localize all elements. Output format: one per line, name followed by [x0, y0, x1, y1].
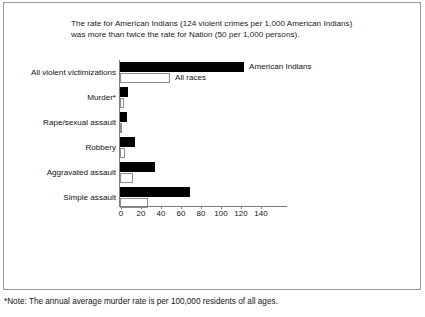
x-tick-label-0: 0 [111, 209, 131, 218]
bar-group-aggravated-assault: Aggravated assault [0, 162, 418, 186]
bar-group-murder: Murder* [0, 87, 418, 111]
category-label-simple-assault: Simple assault [0, 193, 116, 203]
x-tick-label-120: 120 [231, 209, 251, 218]
bar-american-indians-murder [120, 87, 128, 97]
bar-american-indians-all-violent-victimizations [120, 62, 244, 72]
bar-american-indians-aggravated-assault [120, 162, 155, 172]
bar-american-indians-rape-sexual-assault [120, 112, 127, 122]
series-tag-american-indians: American Indians [249, 62, 312, 72]
bar-all-races-aggravated-assault [120, 173, 133, 183]
x-tick-label-100: 100 [211, 209, 231, 218]
category-label-aggravated-assault: Aggravated assault [0, 168, 116, 178]
x-tick-label-140: 140 [251, 209, 271, 218]
bar-all-races-robbery [120, 148, 125, 158]
x-tick-label-20: 20 [131, 209, 151, 218]
x-tick-label-80: 80 [191, 209, 211, 218]
bar-all-races-rape-sexual-assault [120, 123, 122, 133]
category-label-robbery: Robbery [0, 143, 116, 153]
bar-american-indians-simple-assault [120, 187, 190, 197]
bar-group-all-violent-victimizations: All violent victimizations American Indi… [0, 62, 418, 86]
x-tick-label-60: 60 [171, 209, 191, 218]
bar-all-races-murder [120, 98, 124, 108]
chart-footnote: *Note: The annual average murder rate is… [4, 296, 278, 307]
bar-all-races-all-violent-victimizations [120, 73, 170, 83]
category-label-all-violent-victimizations: All violent victimizations [0, 68, 116, 78]
bar-group-robbery: Robbery [0, 137, 418, 161]
x-tick-label-40: 40 [151, 209, 171, 218]
series-tag-all-races: All races [175, 73, 206, 83]
bar-group-rape-sexual-assault: Rape/sexual assault [0, 112, 418, 136]
bar-group-simple-assault: Simple assault [0, 187, 418, 211]
category-label-rape-sexual-assault: Rape/sexual assault [0, 118, 116, 128]
chart-plot-area: All violent victimizations American Indi… [0, 0, 418, 288]
bar-american-indians-robbery [120, 137, 135, 147]
category-label-murder: Murder* [0, 93, 116, 103]
